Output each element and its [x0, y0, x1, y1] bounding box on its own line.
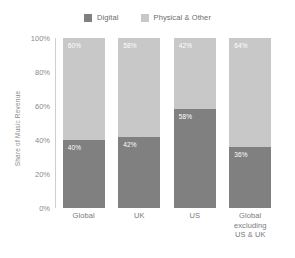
bar-segment-digital[interactable]: 40%: [63, 140, 105, 208]
x-label-global-excluding-us-uk: Global excluding US & UK: [227, 211, 273, 240]
y-tick-40: 40%: [35, 136, 50, 145]
bar-group-global[interactable]: 60% 40%: [63, 38, 105, 208]
bar-value-label-physical: 42%: [179, 42, 192, 49]
bar-value-label-physical: 64%: [234, 42, 247, 49]
y-tick-80: 80%: [35, 68, 50, 77]
bar-value-label-digital: 42%: [123, 141, 136, 148]
bar-value-label-digital: 40%: [68, 144, 81, 151]
stacked-bar-chart: Digital Physical & Other Share of Music …: [0, 0, 295, 258]
bar-group-global-excluding-us-uk[interactable]: 64% 36%: [229, 38, 271, 208]
bar-value-label-digital: 36%: [234, 151, 247, 158]
bar-value-label-physical: 58%: [123, 42, 136, 49]
x-label-line: US: [172, 211, 218, 221]
x-label-line: Global: [61, 211, 107, 221]
x-label-us: US: [172, 211, 218, 221]
bars-container: 60% 40% 58% 42% 42% 58%: [56, 38, 278, 208]
y-axis-title: Share of Music Revenue: [12, 78, 24, 178]
legend-item-digital: Digital: [84, 13, 119, 22]
y-tick-60: 60%: [35, 102, 50, 111]
plot-area: 100% 80% 60% 40% 20% 0% 60% 40% 58%: [30, 38, 278, 208]
bar-segment-digital[interactable]: 36%: [229, 147, 271, 208]
y-tick-20: 20%: [35, 170, 50, 179]
legend-swatch-digital-icon: [84, 14, 92, 22]
bar-value-label-digital: 58%: [179, 113, 192, 120]
legend-item-physical-and-other: Physical & Other: [141, 13, 211, 22]
x-label-global: Global: [61, 211, 107, 221]
legend-label-digital: Digital: [97, 13, 119, 22]
bar-segment-digital[interactable]: 58%: [174, 109, 216, 208]
x-label-line: US & UK: [227, 230, 273, 240]
y-tick-100: 100%: [31, 34, 50, 43]
bar-value-label-physical: 60%: [68, 42, 81, 49]
x-label-line: Global: [227, 211, 273, 221]
chart-legend: Digital Physical & Other: [0, 13, 295, 22]
bar-group-us[interactable]: 42% 58%: [174, 38, 216, 208]
y-axis-ticks: 100% 80% 60% 40% 20% 0%: [30, 38, 54, 208]
bar-segment-physical[interactable]: 42%: [174, 38, 216, 109]
bar-segment-digital[interactable]: 42%: [118, 137, 160, 208]
y-tick-0: 0%: [39, 204, 50, 213]
bar-group-uk[interactable]: 58% 42%: [118, 38, 160, 208]
legend-swatch-physical-icon: [141, 14, 149, 22]
x-axis-labels: Global UK US Global excluding US & UK: [56, 211, 278, 240]
bar-segment-physical[interactable]: 60%: [63, 38, 105, 140]
bar-segment-physical[interactable]: 64%: [229, 38, 271, 147]
legend-label-physical-and-other: Physical & Other: [154, 13, 211, 22]
bar-segment-physical[interactable]: 58%: [118, 38, 160, 137]
x-label-uk: UK: [116, 211, 162, 221]
x-label-line: excluding: [227, 221, 273, 231]
x-label-line: UK: [116, 211, 162, 221]
y-axis-title-text: Share of Music Revenue: [15, 90, 22, 166]
